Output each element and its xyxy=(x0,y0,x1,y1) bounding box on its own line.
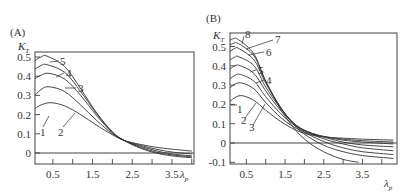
y-tick-label: 0 xyxy=(26,147,32,159)
y-tick-label: 0.5 xyxy=(17,51,31,63)
series-line-5 xyxy=(33,55,192,157)
x-axis-label-subscript: p xyxy=(184,175,189,183)
x-axis-label: λp xyxy=(179,168,189,183)
y-tick-label: 0.2 xyxy=(17,109,31,121)
leader-line-3 xyxy=(253,104,265,125)
series-label-7: 7 xyxy=(275,33,281,45)
y-tick-label: 0.5 xyxy=(212,41,226,53)
y-tick-label: 0.2 xyxy=(212,98,226,110)
series-label-2: 2 xyxy=(58,126,64,138)
panel-label: (A) xyxy=(10,26,26,39)
series-label-8: 8 xyxy=(245,28,251,40)
series-line-5 xyxy=(227,56,393,151)
series-label-2: 2 xyxy=(241,114,247,126)
plot-frame xyxy=(230,33,397,164)
series-line-3 xyxy=(33,73,192,156)
series-line-4 xyxy=(33,64,192,157)
x-tick-label: 3.5 xyxy=(165,168,179,180)
leader-line-5 xyxy=(50,61,59,62)
y-tick-label: 0.3 xyxy=(17,89,31,101)
series-line-2 xyxy=(33,87,192,154)
panel-a: (A)KTλp00.10.20.30.40.50.51.52.53.512345 xyxy=(10,26,194,183)
leader-line-2 xyxy=(63,113,75,127)
y-tick-label: -0.1 xyxy=(209,156,226,168)
series-label-3: 3 xyxy=(249,121,255,133)
x-tick-label: 2.5 xyxy=(125,168,139,180)
y-tick-label: 0.4 xyxy=(17,70,31,82)
y-tick-label: 0.4 xyxy=(212,60,226,72)
series-line-8 xyxy=(227,38,359,162)
series-label-1: 1 xyxy=(40,126,46,138)
x-tick-label: 3.5 xyxy=(356,168,370,180)
x-tick-label: 0.5 xyxy=(46,168,60,180)
series-label-5: 5 xyxy=(60,55,66,67)
x-tick-label: 0.5 xyxy=(239,168,253,180)
x-tick-label: 1.5 xyxy=(278,168,292,180)
series-label-6: 6 xyxy=(266,46,272,58)
figure: (A)KTλp00.10.20.30.40.50.51.52.53.512345… xyxy=(0,0,411,192)
panel-b: (B)KTλp-0.100.10.20.30.40.50.51.52.53.51… xyxy=(206,12,397,192)
y-tick-label: 0.1 xyxy=(212,118,226,130)
y-tick-label: 0.1 xyxy=(17,128,31,140)
panel-label: (B) xyxy=(206,12,221,25)
x-tick-label: 2.5 xyxy=(317,168,331,180)
leader-line-2 xyxy=(245,103,256,118)
y-tick-label: 0 xyxy=(221,137,227,149)
y-tick-label: 0.3 xyxy=(212,79,226,91)
x-tick-label: 1.5 xyxy=(86,168,100,180)
x-axis-label: λp xyxy=(383,177,393,192)
x-axis-label-subscript: p xyxy=(388,184,393,192)
series-line-1 xyxy=(33,103,192,151)
